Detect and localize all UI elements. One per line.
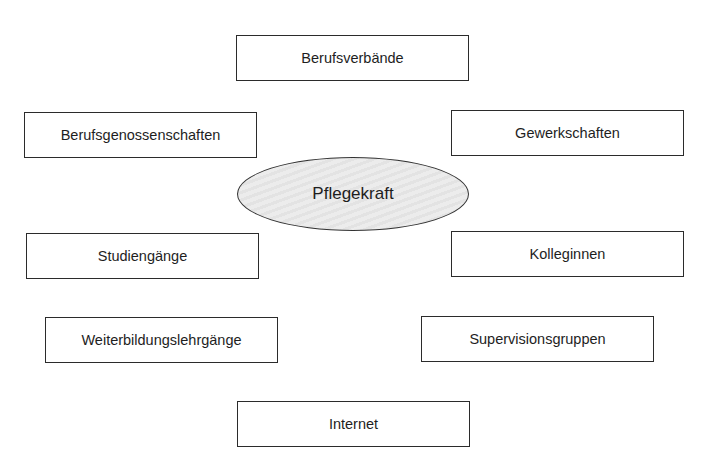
node-label: Kolleginnen — [530, 246, 606, 262]
node-gewerkschaften: Gewerkschaften — [451, 110, 684, 156]
node-label: Gewerkschaften — [515, 125, 620, 141]
node-label: Berufsgenossenschaften — [61, 127, 221, 143]
node-berufsgenossenschaften: Berufsgenossenschaften — [24, 112, 257, 158]
node-weiterbildungslehrgaenge: Weiterbildungslehrgänge — [45, 317, 278, 363]
node-berufsverbaende: Berufsverbände — [236, 35, 469, 81]
node-supervisionsgruppen: Supervisionsgruppen — [421, 316, 654, 362]
node-kolleginnen: Kolleginnen — [451, 231, 684, 277]
node-internet: Internet — [237, 401, 470, 447]
node-label: Berufsverbände — [301, 50, 403, 66]
node-label: Supervisionsgruppen — [469, 331, 605, 347]
center-label: Pflegekraft — [312, 184, 393, 204]
node-label: Studiengänge — [98, 248, 188, 264]
node-label: Weiterbildungslehrgänge — [81, 332, 241, 348]
node-label: Internet — [329, 416, 378, 432]
center-node-pflegekraft: Pflegekraft — [237, 157, 469, 231]
node-studiengaenge: Studiengänge — [26, 233, 259, 279]
